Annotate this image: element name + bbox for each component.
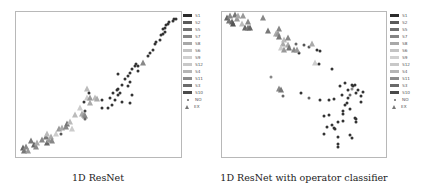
legend-item-no: NO xyxy=(390,96,408,103)
no-marker xyxy=(342,112,345,115)
legend-swatch xyxy=(390,63,399,66)
ex-marker xyxy=(140,59,146,65)
no-marker xyxy=(355,92,358,95)
legend-item-s4: S4 xyxy=(183,68,200,75)
no-marker xyxy=(100,99,103,102)
ex-marker xyxy=(84,85,90,91)
legend-item-s1: S1 xyxy=(390,12,407,19)
legend-item-s12: S12 xyxy=(390,61,410,68)
no-marker xyxy=(130,93,133,96)
legend-swatch xyxy=(390,35,399,38)
legend-item-s8: S8 xyxy=(183,40,200,47)
no-marker xyxy=(270,76,273,79)
legend-item-s6: S6 xyxy=(390,47,407,54)
ex-marker xyxy=(49,137,55,143)
no-marker xyxy=(357,89,360,92)
ex-marker xyxy=(265,27,271,33)
no-marker xyxy=(110,103,113,106)
legend-item-s7: S7 xyxy=(390,33,407,40)
legend-swatch xyxy=(183,70,192,73)
no-marker xyxy=(330,67,333,70)
legend-label: EX xyxy=(401,104,407,109)
ex-marker xyxy=(94,95,100,101)
no-marker xyxy=(360,100,363,103)
no-marker xyxy=(100,106,103,109)
legend-label: S5 xyxy=(402,27,407,32)
ex-marker xyxy=(285,34,291,40)
legend-swatch xyxy=(183,14,192,17)
legend-label: S3 xyxy=(195,83,200,88)
no-marker xyxy=(59,132,62,135)
no-marker xyxy=(355,121,358,124)
legend-swatch xyxy=(390,91,399,94)
legend-swatch xyxy=(183,35,192,38)
no-marker xyxy=(337,121,340,124)
no-marker xyxy=(344,82,347,85)
legend-swatch xyxy=(390,14,399,17)
scatter-plot-right xyxy=(221,11,387,158)
legend-label: S4 xyxy=(195,69,200,74)
no-marker xyxy=(353,83,356,86)
legend-item-s8: S8 xyxy=(390,40,407,47)
legend-swatch xyxy=(390,28,399,31)
no-marker xyxy=(340,93,343,96)
legend-item-s1: S1 xyxy=(183,12,200,19)
no-marker xyxy=(342,119,345,122)
no-marker xyxy=(334,128,337,131)
legend-swatch xyxy=(183,56,192,59)
ex-marker xyxy=(276,26,282,32)
legend-item-no: NO xyxy=(183,96,201,103)
no-marker xyxy=(175,18,178,21)
no-marker xyxy=(127,84,130,87)
ex-marker xyxy=(278,87,284,93)
legend-item-s10: S10 xyxy=(390,89,410,96)
no-marker xyxy=(109,96,112,99)
no-marker xyxy=(294,42,297,45)
no-marker xyxy=(327,113,330,116)
no-marker xyxy=(118,92,121,95)
dot-marker-icon xyxy=(187,99,189,101)
no-marker xyxy=(281,95,284,98)
ex-marker xyxy=(247,24,253,30)
legend-item-ex: EX xyxy=(390,103,407,110)
legend-label: S11 xyxy=(195,76,203,81)
legend-item-s9: S9 xyxy=(183,54,200,61)
legend-label: S2 xyxy=(195,20,200,25)
no-marker xyxy=(299,92,302,95)
no-marker xyxy=(303,44,306,47)
no-marker xyxy=(127,74,130,77)
no-marker xyxy=(337,135,340,138)
legend-item-s5: S5 xyxy=(183,26,200,33)
legend-item-s11: S11 xyxy=(183,75,203,82)
legend-item-ex: EX xyxy=(183,103,200,110)
legend-swatch xyxy=(183,91,192,94)
legend-label: S9 xyxy=(402,55,407,60)
legend-swatch xyxy=(390,21,399,24)
triangle-marker-icon xyxy=(185,105,189,109)
no-marker xyxy=(82,100,85,103)
no-marker xyxy=(137,70,140,73)
legend-item-s9: S9 xyxy=(390,54,407,61)
legend-item-s7: S7 xyxy=(183,33,200,40)
no-marker xyxy=(360,95,363,98)
legend-item-s3: S3 xyxy=(183,82,200,89)
legend-swatch xyxy=(390,56,399,59)
no-marker xyxy=(327,99,330,102)
legend-swatch xyxy=(390,70,399,73)
ex-marker xyxy=(67,119,73,125)
caption-right: 1D ResNet with operator classifier xyxy=(220,172,387,183)
no-marker xyxy=(123,77,126,80)
no-marker xyxy=(350,137,353,140)
legend-swatch xyxy=(183,42,192,45)
legend-swatch xyxy=(390,84,399,87)
no-marker xyxy=(332,98,335,101)
legend-item-s4: S4 xyxy=(390,68,407,75)
legend-label: S1 xyxy=(402,13,407,18)
no-marker xyxy=(350,87,353,90)
legend-swatch xyxy=(390,77,399,80)
caption-left: 1D ResNet xyxy=(72,172,124,183)
legend-item-s10: S10 xyxy=(183,89,203,96)
legend-swatch xyxy=(183,84,192,87)
no-marker xyxy=(163,26,166,29)
legend-label: S7 xyxy=(402,34,407,39)
